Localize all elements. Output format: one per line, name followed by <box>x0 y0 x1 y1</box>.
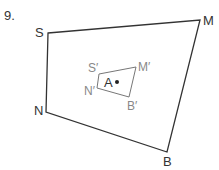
vertex-label-s: S <box>35 25 44 40</box>
dilation-diagram: 9. S M B N S′ M′ B′ N′ A <box>0 0 219 170</box>
vertex-label-b-prime: B′ <box>127 99 138 113</box>
problem-number: 9. <box>4 8 15 23</box>
center-point <box>115 80 119 84</box>
vertex-label-n-prime: N′ <box>84 84 96 98</box>
center-label-a: A <box>104 75 113 90</box>
vertex-label-s-prime: S′ <box>88 61 99 75</box>
vertex-label-n: N <box>34 103 43 118</box>
vertex-label-m-prime: M′ <box>138 60 151 74</box>
vertex-label-m: M <box>203 13 214 28</box>
vertex-label-b: B <box>163 154 172 169</box>
outer-quadrilateral <box>46 20 200 152</box>
